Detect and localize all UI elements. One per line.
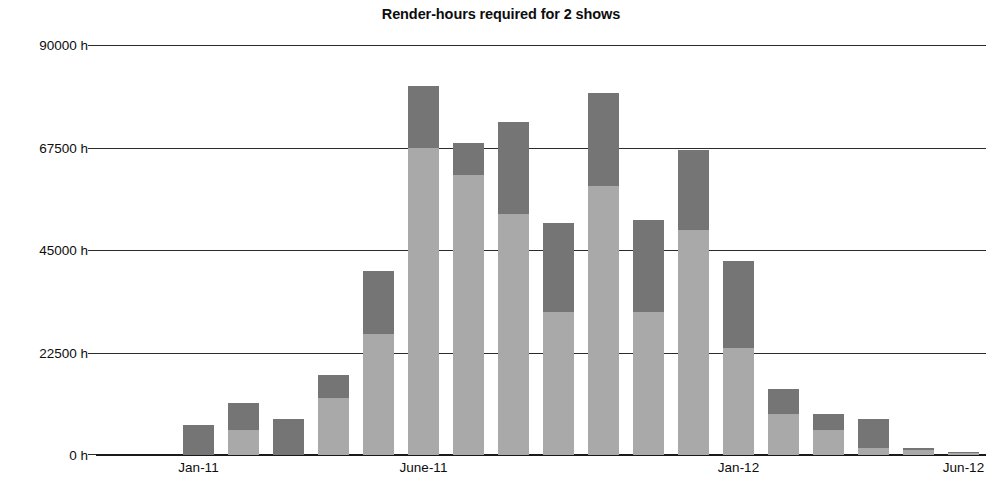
bar-Feb-12[interactable] xyxy=(768,389,799,455)
bar-May-12[interactable] xyxy=(903,448,934,455)
y-tick-mark xyxy=(88,353,96,354)
bar-Jun-12[interactable] xyxy=(948,452,979,455)
bar-segment-lower xyxy=(453,175,484,455)
bar-Jan-11[interactable] xyxy=(183,425,214,455)
bar-segment-upper xyxy=(903,448,934,450)
bar-segment-upper xyxy=(453,143,484,175)
x-axis-tick-label: Jan-12 xyxy=(718,460,759,475)
y-axis-tick-label: 45000 h xyxy=(0,243,88,258)
bar-segment-upper xyxy=(768,389,799,414)
bar-segment-lower xyxy=(588,186,619,455)
bar-Nov-11[interactable] xyxy=(633,220,664,455)
bar-segment-upper xyxy=(183,425,214,455)
bar-segment-lower xyxy=(768,414,799,455)
bar-segment-lower xyxy=(813,430,844,455)
chart-screenshot: Render-hours required for 2 shows 0 h225… xyxy=(0,0,1002,499)
x-axis-tick-label: June-11 xyxy=(400,460,448,475)
bar-segment-upper xyxy=(723,261,754,348)
bar-segment-lower xyxy=(498,214,529,455)
bar-Dec-11[interactable] xyxy=(678,150,709,455)
bar-segment-upper xyxy=(633,220,664,311)
y-axis-tick-label: 90000 h xyxy=(0,38,88,53)
bar-Mar-12[interactable] xyxy=(813,414,844,455)
bar-segment-upper xyxy=(318,375,349,398)
bar-Apr-11[interactable] xyxy=(318,375,349,455)
x-axis-tick-label: Jun-12 xyxy=(943,460,984,475)
bar-Aug-11[interactable] xyxy=(498,122,529,455)
bar-Oct-11[interactable] xyxy=(588,93,619,455)
bar-segment-upper xyxy=(543,223,574,312)
y-tick-mark xyxy=(88,250,96,251)
chart-title: Render-hours required for 2 shows xyxy=(0,6,1002,22)
bar-July-11[interactable] xyxy=(453,143,484,455)
bar-segment-lower xyxy=(633,312,664,456)
bar-segment-lower xyxy=(408,148,439,456)
y-axis-tick-label: 0 h xyxy=(0,448,88,463)
bar-Mar-11[interactable] xyxy=(273,419,304,455)
bar-segment-lower xyxy=(858,448,889,455)
bar-segment-upper xyxy=(858,419,889,449)
bar-segment-upper xyxy=(363,271,394,335)
bar-segment-lower xyxy=(363,334,394,455)
plot-area xyxy=(96,45,986,455)
bar-segment-lower xyxy=(318,398,349,455)
bar-segment-upper xyxy=(408,86,439,148)
bar-segment-lower xyxy=(903,450,934,455)
bar-segment-upper xyxy=(678,150,709,230)
bar-segment-lower xyxy=(228,430,259,455)
bar-segment-upper xyxy=(813,414,844,430)
y-axis-tick-label: 22500 h xyxy=(0,345,88,360)
bar-segment-upper xyxy=(498,122,529,213)
bar-segment-lower xyxy=(723,348,754,455)
x-axis-labels: Jan-11June-11Jan-12Jun-12 xyxy=(96,458,986,486)
bar-Sep-11[interactable] xyxy=(543,223,574,455)
bar-segment-lower xyxy=(948,453,979,455)
bar-segment-lower xyxy=(678,230,709,456)
bar-June-11[interactable] xyxy=(408,86,439,455)
bar-segment-lower xyxy=(543,312,574,456)
bar-segment-upper xyxy=(948,452,979,453)
y-tick-mark xyxy=(88,148,96,149)
bar-May-11[interactable] xyxy=(363,271,394,456)
y-axis-labels: 0 h22500 h45000 h67500 h90000 h xyxy=(0,45,88,455)
bar-Jan-12[interactable] xyxy=(723,261,754,455)
bar-series-group xyxy=(96,45,986,455)
y-tick-mark xyxy=(88,45,96,46)
y-tick-mark xyxy=(88,454,96,455)
bar-segment-upper xyxy=(588,93,619,186)
bar-Feb-11[interactable] xyxy=(228,403,259,455)
y-axis-tick-label: 67500 h xyxy=(0,140,88,155)
bar-segment-upper xyxy=(273,419,304,455)
bar-Apr-12[interactable] xyxy=(858,419,889,455)
x-axis-tick-label: Jan-11 xyxy=(178,460,218,475)
bar-segment-upper xyxy=(228,403,259,430)
